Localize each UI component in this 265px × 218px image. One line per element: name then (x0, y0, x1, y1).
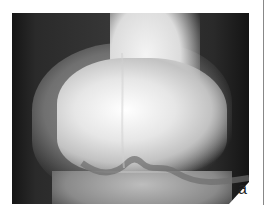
divider-line (263, 0, 264, 205)
xray-image (12, 13, 249, 204)
joint-space-line (12, 13, 249, 204)
panel-label: a (238, 181, 247, 197)
